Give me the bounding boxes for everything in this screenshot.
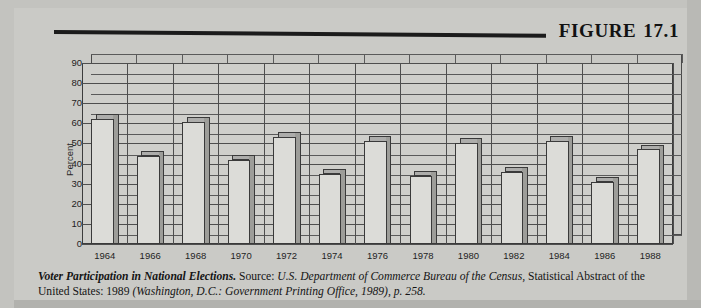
bar[interactable] (228, 160, 251, 244)
caption-source-label: Source: (239, 270, 274, 283)
plot-area: 1964196619681970197219741976197819801982… (82, 54, 682, 244)
gridline (82, 63, 673, 64)
x-tick-label: 1982 (491, 250, 536, 261)
bar[interactable] (364, 141, 387, 244)
category-separator (264, 63, 265, 244)
gridline (82, 83, 673, 84)
y-tick-label: 80 (48, 78, 82, 87)
bar[interactable] (546, 141, 569, 244)
gridline-back (91, 134, 682, 135)
bar[interactable] (319, 174, 342, 244)
gridline-back (91, 94, 682, 95)
category-separator-riser (455, 54, 456, 63)
page-bottom-shade (14, 300, 701, 308)
y-tick-label: 20 (48, 199, 82, 208)
y-tick-label: 0 (48, 239, 82, 248)
category-separator-riser (136, 54, 137, 63)
y-tick-label: 90 (48, 58, 82, 67)
figure-caption: Voter Participation in National Election… (38, 270, 678, 299)
gridline-back (91, 114, 682, 115)
bar[interactable] (91, 119, 114, 244)
x-tick-label: 1978 (400, 250, 445, 261)
category-separator (673, 63, 674, 244)
bar[interactable] (637, 149, 660, 244)
x-tick-label: 1968 (173, 250, 218, 261)
bar[interactable] (273, 137, 296, 244)
category-separator (628, 63, 629, 244)
category-separator (537, 63, 538, 244)
figure-label: FIGURE17.1 (559, 20, 679, 42)
category-separator (355, 63, 356, 244)
y-tick-label: 50 (48, 138, 82, 147)
caption-source-italic-1: U.S. Department of Commerce Bureau of th… (277, 270, 525, 283)
y-tick-label: 60 (48, 118, 82, 127)
category-separator (127, 63, 128, 244)
gridline-back (91, 54, 682, 55)
bar[interactable] (182, 122, 205, 244)
x-tick-label: 1966 (127, 250, 172, 261)
gridline (82, 244, 673, 245)
category-separator-riser (409, 54, 410, 63)
y-tick-label: 10 (48, 219, 82, 228)
category-separator (173, 63, 174, 244)
category-separator (218, 63, 219, 244)
figure-label-word: FIGURE (559, 20, 637, 41)
figure-number: 17.1 (643, 20, 679, 41)
category-separator-riser (591, 54, 592, 63)
x-tick-label: 1974 (309, 250, 354, 261)
x-tick-label: 1980 (446, 250, 491, 261)
category-separator-riser (364, 54, 365, 63)
category-separator-riser (273, 54, 274, 63)
x-tick-label: 1972 (264, 250, 309, 261)
category-separator-riser (182, 54, 183, 63)
x-tick-label: 1970 (218, 250, 263, 261)
category-separator-riser (637, 54, 638, 63)
bar[interactable] (501, 172, 524, 244)
bar[interactable] (137, 156, 160, 244)
category-separator (446, 63, 447, 244)
y-tick-label: 70 (48, 98, 82, 107)
category-separator-riser (682, 54, 683, 63)
bar[interactable] (455, 143, 478, 244)
bar-chart: Percent 19641966196819701972197419761978… (38, 50, 686, 255)
category-separator-riser (546, 54, 547, 63)
gridline-back (91, 74, 682, 75)
bar[interactable] (591, 182, 614, 244)
paper-sheet: FIGURE17.1 Percent 196419661968197019721… (14, 8, 687, 308)
y-tick-label: 30 (48, 179, 82, 188)
caption-lead: Voter Participation in National Election… (38, 270, 236, 283)
gridline (82, 103, 673, 104)
category-separator (582, 63, 583, 244)
category-separator (491, 63, 492, 244)
x-tick-label: 1976 (355, 250, 400, 261)
x-tick-label: 1986 (582, 250, 627, 261)
x-tick-label: 1988 (628, 250, 673, 261)
x-tick-label: 1964 (82, 250, 127, 261)
y-tick-label: 40 (48, 159, 82, 168)
category-separator-riser (500, 54, 501, 63)
header-rule (54, 30, 546, 38)
caption-source-italic-2: (Washington, D.C.: Government Printing O… (132, 285, 425, 298)
x-tick-label: 1984 (537, 250, 582, 261)
category-separator-riser (318, 54, 319, 63)
category-separator (400, 63, 401, 244)
gridline (82, 123, 673, 124)
category-separator (309, 63, 310, 244)
bar[interactable] (410, 176, 433, 244)
category-separator-riser (227, 54, 228, 63)
